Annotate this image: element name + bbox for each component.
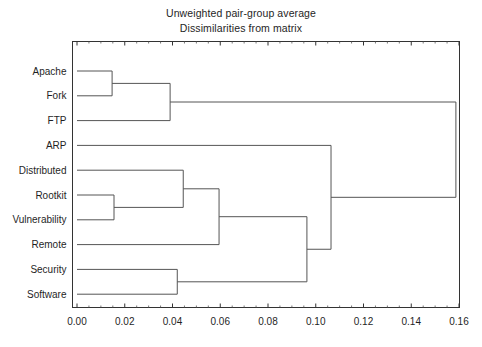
dendrogram-leaf-label: Rootkit bbox=[35, 190, 66, 201]
dendrogram-links bbox=[77, 71, 456, 294]
x-axis-tick-label: 0.08 bbox=[258, 316, 278, 327]
dendrogram-leaf-label: Fork bbox=[47, 90, 68, 101]
dendrogram-leaf-label: FTP bbox=[48, 115, 67, 126]
dendrogram-plot: 0.000.020.040.060.080.100.120.140.16 Apa… bbox=[0, 0, 482, 347]
dendrogram-leaf-label: Security bbox=[30, 264, 66, 275]
dendrogram-leaf-label: Distributed bbox=[19, 165, 67, 176]
dendrogram-leaf-label: Apache bbox=[33, 66, 67, 77]
x-axis-tick-label: 0.16 bbox=[449, 316, 469, 327]
x-axis-tick-labels: 0.000.020.040.060.080.100.120.140.16 bbox=[67, 316, 469, 327]
dendrogram-leaf-label: Remote bbox=[31, 239, 66, 250]
x-axis-tick-marks bbox=[77, 42, 459, 308]
x-axis-tick-label: 0.06 bbox=[211, 316, 231, 327]
x-axis-tick-label: 0.02 bbox=[115, 316, 135, 327]
x-axis-tick-label: 0.12 bbox=[354, 316, 374, 327]
x-axis-tick-label: 0.00 bbox=[67, 316, 87, 327]
x-axis-tick-label: 0.14 bbox=[402, 316, 422, 327]
dendrogram-leaf-labels: ApacheForkFTPARPDistributedRootkitVulner… bbox=[12, 66, 67, 300]
plot-frame bbox=[73, 42, 460, 308]
x-axis-tick-label: 0.10 bbox=[306, 316, 326, 327]
dendrogram-leaf-label: Software bbox=[27, 289, 67, 300]
dendrogram-leaf-label: Vulnerability bbox=[12, 214, 66, 225]
x-axis-tick-label: 0.04 bbox=[163, 316, 183, 327]
dendrogram-leaf-label: ARP bbox=[46, 140, 67, 151]
dendrogram-figure: Unweighted pair-group average Dissimilar… bbox=[0, 0, 482, 347]
